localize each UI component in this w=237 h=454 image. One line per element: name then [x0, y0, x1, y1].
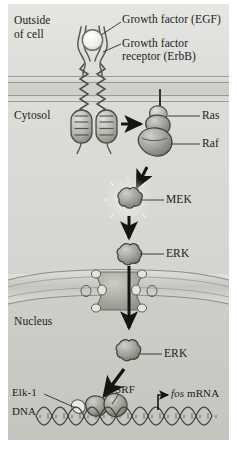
label-mrna-text: mRNA — [184, 387, 219, 399]
label-growth-factor-egf: Growth factor (EGF) — [122, 13, 221, 27]
label-outside-of-cell-line1: Outside — [14, 14, 50, 28]
erk-protein-nucleus — [116, 340, 141, 361]
label-receptor-line1: Growth factor — [122, 37, 188, 51]
raf-protein — [138, 115, 172, 156]
erk-protein-cytosol — [117, 244, 142, 265]
label-fos-italic: fos — [171, 387, 184, 399]
receptor-kinase-domains — [71, 110, 117, 154]
leader-elk1 — [44, 394, 76, 408]
pathway-artwork — [8, 4, 229, 440]
label-erk-nucleus: ERK — [164, 347, 187, 361]
label-erk-cytosol: ERK — [166, 247, 189, 261]
pathway-figure: Outside of cell Growth factor (EGF) Grow… — [8, 4, 229, 440]
transmembrane-helices — [80, 64, 105, 113]
label-fos-mrna: fos mRNA — [171, 387, 219, 401]
label-mek: MEK — [166, 193, 192, 207]
egf-ligand — [82, 30, 102, 50]
label-receptor-line2: receptor (ErbB) — [122, 50, 196, 64]
mek-protein — [118, 188, 142, 209]
label-dna: DNA — [12, 405, 36, 419]
label-outside-of-cell-line2: of cell — [14, 28, 44, 42]
label-elk1: Elk-1 — [12, 386, 37, 400]
label-ras: Ras — [202, 109, 220, 123]
arrow-transcription-to-fos-mrna — [158, 395, 168, 410]
srf-protein — [86, 393, 128, 416]
label-srf: SRF — [115, 383, 135, 397]
label-cytosol: Cytosol — [14, 109, 51, 123]
label-raf: Raf — [202, 137, 219, 151]
label-nucleus: Nucleus — [14, 315, 52, 329]
leader-receptor — [103, 44, 121, 52]
